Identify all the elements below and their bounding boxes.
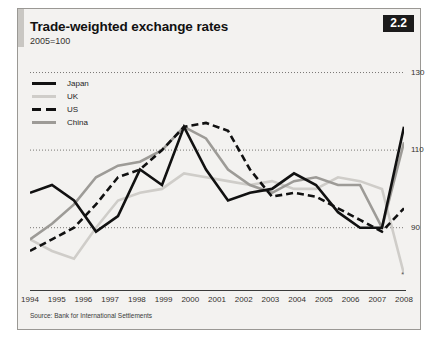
chart-source: Source: Bank for International Settlemen…: [30, 312, 152, 319]
figure-number-badge: 2.2: [383, 15, 414, 32]
x-tick-label: 2003: [261, 295, 279, 304]
y-tick-label: 130: [411, 68, 424, 77]
legend-item-uk[interactable]: UK: [32, 90, 89, 103]
x-tick-label: 2005: [315, 295, 333, 304]
x-tick-label: 1998: [128, 295, 146, 304]
x-tick-label: 2007: [368, 295, 386, 304]
x-tick-label: 2006: [342, 295, 360, 304]
x-tick-label: 1994: [21, 295, 39, 304]
legend-item-japan[interactable]: Japan: [32, 77, 89, 90]
legend-swatch-icon: [32, 121, 56, 124]
x-tick-label: 1997: [101, 295, 119, 304]
footnote-marker: *: [401, 271, 404, 278]
legend-item-us[interactable]: US: [32, 103, 89, 116]
chart-legend: JapanUKUSChina: [32, 77, 89, 129]
legend-swatch-icon: [32, 82, 56, 85]
x-tick-label: 2001: [208, 295, 226, 304]
x-tick-label: 1996: [74, 295, 92, 304]
x-tick-label: 2008: [395, 295, 413, 304]
x-tick-label: 2000: [181, 295, 199, 304]
legend-item-china[interactable]: China: [32, 116, 89, 129]
chart-subtitle: 2005=100: [30, 36, 70, 46]
x-axis-line: [30, 290, 406, 291]
y-tick-label: 90: [411, 223, 420, 232]
x-tick-label: 2004: [288, 295, 306, 304]
legend-swatch-icon: [32, 108, 56, 111]
chart-figure: Trade-weighted exchange rates 2005=100 2…: [17, 8, 421, 330]
x-tick-label: 1999: [155, 295, 173, 304]
x-tick-label: 1995: [48, 295, 66, 304]
y-tick-label: 110: [411, 145, 424, 154]
legend-label: Japan: [67, 79, 89, 88]
legend-label: US: [67, 105, 78, 114]
legend-label: China: [67, 118, 88, 127]
x-tick-label: 2002: [235, 295, 253, 304]
legend-label: UK: [67, 92, 78, 101]
chart-title: Trade-weighted exchange rates: [30, 19, 228, 34]
legend-swatch-icon: [32, 95, 56, 98]
x-axis-ticks: 1994199519961997199819992000200120022003…: [30, 295, 406, 309]
title-accent-bar: [18, 9, 24, 47]
